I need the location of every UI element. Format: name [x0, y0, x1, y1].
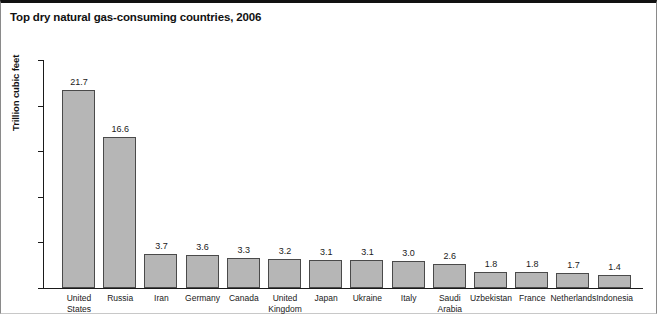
bar-group[interactable]: 21.7UnitedStates [60, 59, 98, 288]
bar-group[interactable]: 3.0Italy [390, 59, 428, 288]
bar-value-label: 3.1 [307, 248, 345, 257]
bar[interactable] [227, 258, 260, 288]
x-category-label-line1: Canada [229, 293, 259, 303]
bar-group[interactable]: 2.6SaudiArabia [431, 59, 469, 288]
x-category-label-line1: Italy [401, 293, 417, 303]
bar[interactable] [556, 273, 589, 289]
x-category-label-line1: Germany [185, 293, 220, 303]
bar[interactable] [309, 260, 342, 288]
x-category-label-line2: Kingdom [260, 304, 310, 314]
bar[interactable] [144, 254, 177, 288]
x-category-label-line2: States [54, 304, 104, 314]
bar-value-label: 3.3 [225, 246, 263, 255]
bar-value-label: 1.8 [513, 260, 551, 269]
bar-group[interactable]: 3.6Germany [184, 59, 222, 288]
bar[interactable] [103, 137, 136, 288]
bar-value-label: 3.2 [266, 247, 304, 256]
bar[interactable] [598, 275, 631, 288]
bar-group[interactable]: 3.7Iran [142, 59, 180, 288]
bar-group[interactable]: 1.8Uzbekistan [472, 59, 510, 288]
x-category-label-line1: United [67, 293, 92, 303]
y-axis-title: Trillion cubic feet [10, 55, 21, 131]
plot-area: 0510152025 21.7UnitedStates16.6Russia3.7… [43, 60, 643, 289]
x-category-label: Indonesia [590, 293, 640, 304]
x-category-label-line1: Saudi [439, 293, 461, 303]
x-category-label-line1: Japan [315, 293, 338, 303]
x-category-label-line2: Arabia [425, 304, 475, 314]
bar-group[interactable]: 16.6Russia [101, 59, 139, 288]
x-category-label-line1: Uzbekistan [470, 293, 512, 303]
bar-group[interactable]: 1.8France [513, 59, 551, 288]
bar[interactable] [350, 260, 383, 288]
bar[interactable] [474, 272, 507, 288]
x-category-label-line1: France [519, 293, 545, 303]
bar-group[interactable]: 3.3Canada [225, 59, 263, 288]
bar-value-label: 1.4 [596, 263, 634, 272]
bar[interactable] [186, 255, 219, 288]
bar-series: 21.7UnitedStates16.6Russia3.7Iran3.6Germ… [43, 60, 643, 289]
bar-group[interactable]: 3.1Ukraine [348, 59, 386, 288]
bar-value-label: 3.0 [390, 249, 428, 258]
bar-value-label: 1.8 [472, 260, 510, 269]
x-category-label-line1: Russia [107, 293, 133, 303]
bar-value-label: 3.7 [142, 242, 180, 251]
bar-value-label: 16.6 [101, 125, 139, 134]
bar-value-label: 3.1 [348, 248, 386, 257]
bar[interactable] [515, 272, 548, 288]
chart-page: Top dry natural gas-consuming countries,… [0, 0, 657, 314]
bar-group[interactable]: 3.1Japan [307, 59, 345, 288]
bar-group[interactable]: 1.7Netherlands [554, 59, 592, 288]
bar[interactable] [268, 259, 301, 288]
bar-value-label: 1.7 [554, 261, 592, 270]
bar-group[interactable]: 3.2UnitedKingdom [266, 59, 304, 288]
bar-value-label: 3.6 [184, 243, 222, 252]
x-category-label-line1: Ukraine [353, 293, 382, 303]
bar-value-label: 2.6 [431, 252, 469, 261]
bar[interactable] [433, 264, 466, 288]
x-category-label-line1: Indonesia [596, 293, 633, 303]
bar-group[interactable]: 1.4Indonesia [596, 59, 634, 288]
bar[interactable] [62, 90, 95, 288]
bar[interactable] [392, 261, 425, 288]
x-category-label-line1: United [273, 293, 298, 303]
x-category-label-line1: Iran [154, 293, 169, 303]
bar-value-label: 21.7 [60, 78, 98, 87]
page-title: Top dry natural gas-consuming countries,… [10, 11, 261, 23]
